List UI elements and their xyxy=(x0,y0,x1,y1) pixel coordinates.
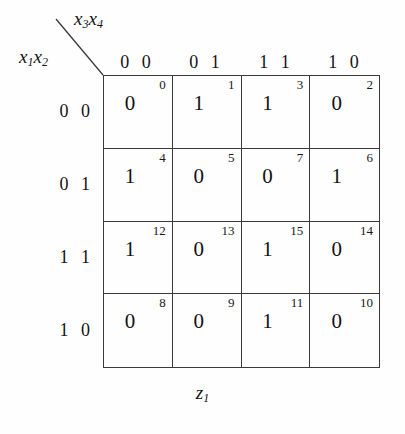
minterm-index: 5 xyxy=(228,151,235,166)
kmap-cell-13: 13 0 xyxy=(173,222,242,295)
karnaugh-map-figure: x3x4 x1x2 0 0 0 1 1 1 1 0 0 0 0 1 1 1 1 … xyxy=(0,0,405,434)
minterm-index: 12 xyxy=(153,224,166,239)
column-variable-sub-2: 4 xyxy=(97,17,103,31)
column-header-0: 0 0 xyxy=(103,52,172,73)
minterm-index: 9 xyxy=(228,296,235,311)
cell-value: 0 xyxy=(165,239,233,260)
kmap-cell-6: 6 1 xyxy=(310,149,379,222)
kmap-cell-7: 7 0 xyxy=(242,149,311,222)
kmap-cell-11: 11 1 xyxy=(242,294,311,367)
cell-value: 0 xyxy=(96,93,164,114)
column-header-3: 1 0 xyxy=(311,52,380,73)
cell-value: 0 xyxy=(302,239,371,260)
cell-value: 0 xyxy=(234,166,302,187)
cell-value: 1 xyxy=(96,239,164,260)
cell-value: 0 xyxy=(165,311,233,332)
kmap-cell-3: 3 1 xyxy=(242,76,311,149)
kmap-cell-15: 15 1 xyxy=(242,222,311,295)
minterm-index: 13 xyxy=(222,224,235,239)
column-header-1: 0 1 xyxy=(172,52,241,73)
minterm-index: 11 xyxy=(291,296,304,311)
row-header-1: 0 1 xyxy=(28,148,94,221)
row-header-0: 0 0 xyxy=(28,75,94,148)
column-variable-base-2: x xyxy=(88,8,96,29)
row-header-2-text: 1 1 xyxy=(60,247,95,267)
minterm-index: 0 xyxy=(159,78,166,93)
row-header-3-text: 1 0 xyxy=(60,320,95,340)
column-header-0-text: 0 0 xyxy=(120,52,155,72)
cell-value: 0 xyxy=(302,311,371,332)
kmap-grid: 0 0 1 1 3 1 2 0 4 1 5 0 7 0 6 1 xyxy=(103,75,380,368)
row-variable-label: x1x2 xyxy=(19,46,48,70)
cell-value: 1 xyxy=(234,93,302,114)
minterm-index: 2 xyxy=(367,78,374,93)
kmap-cell-2: 2 0 xyxy=(310,76,379,149)
cell-value: 0 xyxy=(302,93,371,114)
column-variable-label: x3x4 xyxy=(74,8,103,32)
minterm-index: 6 xyxy=(367,151,374,166)
minterm-index: 10 xyxy=(360,296,373,311)
minterm-index: 4 xyxy=(159,151,166,166)
cell-value: 1 xyxy=(234,311,302,332)
column-header-1-text: 0 1 xyxy=(189,52,224,72)
row-header-2: 1 1 xyxy=(28,221,94,294)
kmap-cell-9: 9 0 xyxy=(173,294,242,367)
row-variable-sub-2: 2 xyxy=(42,55,48,69)
row-variable-base-2: x xyxy=(33,46,41,67)
minterm-index: 1 xyxy=(228,78,235,93)
minterm-index: 14 xyxy=(360,224,373,239)
minterm-index: 3 xyxy=(297,78,304,93)
row-header-3: 1 0 xyxy=(28,294,94,367)
cell-value: 1 xyxy=(96,166,164,187)
kmap-cell-12: 12 1 xyxy=(104,222,173,295)
column-header-2-text: 1 1 xyxy=(259,52,294,72)
kmap-cell-8: 8 0 xyxy=(104,294,173,367)
column-header-2: 1 1 xyxy=(242,52,311,73)
row-header-0-text: 0 0 xyxy=(60,101,95,121)
output-function-sub: 1 xyxy=(203,391,209,405)
cell-value: 1 xyxy=(302,166,371,187)
kmap-cell-0: 0 0 xyxy=(104,76,173,149)
row-header-1-text: 0 1 xyxy=(60,174,95,194)
kmap-cell-1: 1 1 xyxy=(173,76,242,149)
cell-value: 0 xyxy=(165,166,233,187)
output-function-caption: z1 xyxy=(0,382,405,406)
cell-value: 1 xyxy=(165,93,233,114)
kmap-cell-14: 14 0 xyxy=(310,222,379,295)
cell-value: 1 xyxy=(234,239,302,260)
minterm-index: 15 xyxy=(290,224,303,239)
minterm-index: 8 xyxy=(159,296,166,311)
kmap-cell-4: 4 1 xyxy=(104,149,173,222)
kmap-cell-5: 5 0 xyxy=(173,149,242,222)
minterm-index: 7 xyxy=(297,151,304,166)
kmap-cell-10: 10 0 xyxy=(310,294,379,367)
column-header-3-text: 1 0 xyxy=(328,52,363,72)
cell-value: 0 xyxy=(96,311,164,332)
